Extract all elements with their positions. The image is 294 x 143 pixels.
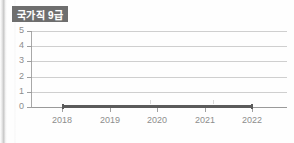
x-axis-label-2022: 2022	[242, 115, 262, 125]
x-axis-label-2021: 2021	[195, 115, 215, 125]
gridline-4	[31, 46, 287, 47]
x-axis-label-2019: 2019	[100, 115, 120, 125]
chart-figure: 국가직 9급 5 4 3 2 1 0	[0, 0, 294, 143]
x-axis-label-2020: 2020	[147, 115, 167, 125]
gridline-1	[31, 92, 287, 93]
scan-speck-a	[150, 100, 151, 104]
x-tick-2020	[157, 108, 158, 112]
series-line-0	[62, 105, 252, 108]
plot-area: 5 4 3 2 1 0 2018 2019 2020 2021 2022	[0, 0, 294, 143]
x-axis-label-2018: 2018	[52, 115, 72, 125]
scan-speck-b	[213, 100, 214, 104]
gridline-5	[31, 31, 287, 32]
series-point-2018	[62, 104, 64, 109]
gridline-2	[31, 77, 287, 78]
x-tick-2019	[110, 108, 111, 112]
y-tick-0	[27, 107, 32, 108]
series-point-2022	[251, 104, 253, 109]
y-axis-line	[31, 31, 32, 108]
y-tick-1	[27, 92, 32, 93]
x-tick-2021	[205, 108, 206, 112]
gridline-3	[31, 61, 287, 62]
y-tick-3	[27, 61, 32, 62]
y-tick-5	[27, 31, 32, 32]
y-tick-4	[27, 46, 32, 47]
y-tick-2	[27, 77, 32, 78]
